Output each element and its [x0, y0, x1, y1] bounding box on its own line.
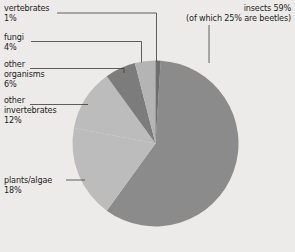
label-vertebrates-value: 1% — [4, 13, 17, 23]
pie-chart-svg: vertebrates 1% fungi 4% other organisms … — [0, 0, 295, 252]
label-vertebrates-name: vertebrates — [4, 3, 49, 13]
label-fungi-value: 4% — [4, 42, 17, 52]
label-insects-line1: insects 59% — [244, 3, 292, 13]
label-other-invertebrates-line2: invertebrates — [4, 105, 56, 115]
label-other-invertebrates-value: 12% — [4, 115, 22, 125]
label-other-organisms-line2: organisms — [4, 69, 45, 79]
label-plants-algae-name: plants/algae — [4, 175, 52, 185]
pie-slices-group — [72, 60, 238, 226]
pie-chart-figure: vertebrates 1% fungi 4% other organisms … — [0, 0, 295, 252]
label-other-invertebrates-line1: other — [4, 95, 26, 105]
label-fungi-name: fungi — [4, 32, 24, 42]
label-other-organisms-value: 6% — [4, 79, 17, 89]
label-other-organisms-line1: other — [4, 59, 26, 69]
label-insects-line2: (of which 25% are beetles) — [186, 13, 291, 23]
label-plants-algae-value: 18% — [4, 185, 22, 195]
